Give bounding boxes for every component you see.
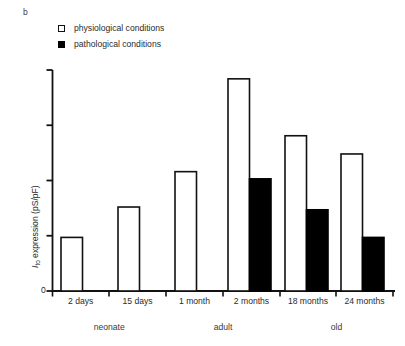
figure-panel: b physiological conditions pathological … [0, 0, 405, 346]
bar-pathological-2-months [250, 179, 272, 291]
bar-physiological-1-month [175, 172, 197, 291]
x-axis-tick-label-1-month: 1 month [166, 296, 223, 307]
x-axis-group-label-adult: adult [166, 322, 280, 333]
bar-physiological-18-months [285, 136, 307, 291]
bar-pathological-18-months [307, 210, 329, 291]
plot-area [0, 0, 405, 346]
chart-bars [61, 79, 384, 291]
bar-physiological-2-days [61, 237, 83, 291]
x-axis-group-label-old: old [280, 322, 393, 333]
chart-svg [0, 0, 405, 346]
x-axis-tick-label-24-months: 24 months [336, 296, 393, 307]
bar-physiological-2-months [228, 79, 250, 291]
bar-pathological-24-months [363, 237, 385, 291]
x-axis-tick-label-18-months: 18 months [280, 296, 336, 307]
x-axis-tick-label-2-days: 2 days [53, 296, 110, 307]
x-axis-group-label-neonate: neonate [53, 322, 167, 333]
x-axis-tick-label-15-days: 15 days [109, 296, 166, 307]
bar-physiological-15-days [118, 207, 140, 291]
x-axis-tick-label-2-months: 2 months [223, 296, 280, 307]
bar-physiological-24-months [341, 154, 363, 291]
